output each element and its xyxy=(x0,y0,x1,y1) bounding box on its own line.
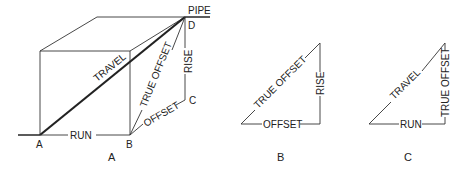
true-offset-label: TRUE OFFSET xyxy=(252,54,309,111)
travel-label: TRAVEL xyxy=(388,66,423,101)
run-label: RUN xyxy=(70,130,92,141)
true-offset-line-low xyxy=(130,110,142,135)
point-c-label: C xyxy=(189,95,196,106)
travel-line-low xyxy=(369,102,391,124)
true-offset-label: TRUE OFFSET xyxy=(440,48,451,117)
pipe-label: PIPE xyxy=(188,5,211,16)
point-d-label: D xyxy=(188,20,195,31)
figure-c-caption: C xyxy=(404,151,412,163)
pipe-offset-diagram: PIPE D A B C RUN TRAVEL TRUE OFFSET RISE… xyxy=(0,0,466,171)
box-top-left-edge xyxy=(40,17,97,51)
true-offset-line-high xyxy=(305,43,320,58)
rise-label: RISE xyxy=(183,49,194,73)
figure-a-caption: A xyxy=(108,151,116,163)
offset-line-low xyxy=(130,124,143,135)
figure-b: TRUE OFFSET RISE OFFSET B xyxy=(241,43,326,163)
figure-c: TRAVEL TRUE OFFSET RUN C xyxy=(369,43,451,163)
run-label: RUN xyxy=(400,119,422,130)
true-offset-line-low xyxy=(241,110,255,124)
rise-label: RISE xyxy=(315,71,326,95)
offset-label: OFFSET xyxy=(263,119,302,130)
figure-a: PIPE D A B C RUN TRAVEL TRUE OFFSET RISE… xyxy=(18,5,211,163)
box-top-right-edge xyxy=(130,17,185,51)
figure-b-caption: B xyxy=(277,151,284,163)
point-a-label: A xyxy=(36,139,43,150)
point-b-label: B xyxy=(126,139,133,150)
